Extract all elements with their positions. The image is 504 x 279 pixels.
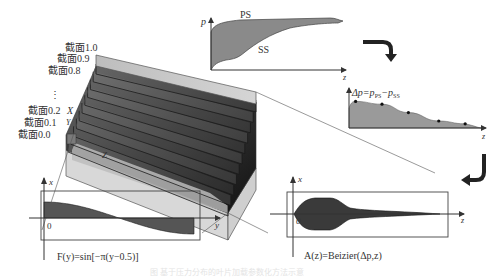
sine-x-axis-arrow [41,177,47,184]
delta-label-mid: −p [381,87,393,98]
bezier-x-axis-arrow [290,176,296,183]
section-label-0-1: 截面0.1 [24,116,57,128]
bezier-origin-label: 0 [296,216,301,226]
delta-pressure-chart: Δp=pPS−pSS z [349,87,486,141]
section-label-0-9: 截面0.9 [57,52,90,64]
figure-canvas: Z Y 截面1.0 截面0.9 截面0.8 ⋮ 截面0.2 X 截面0.1 截面… [0,0,504,279]
sine-origin-label: 0 [47,221,52,231]
arrow-left-icon [469,154,484,180]
section-label-0-8: 截面0.8 [48,64,81,76]
section-label-1-0: 截面1.0 [65,41,98,53]
section-label-0-0: 截面0.0 [18,128,51,140]
section-ellipsis: ⋮ [50,89,60,100]
delta-control-point [437,119,440,122]
delta-label: Δp=pPS−pSS [351,87,400,99]
pressure-area [211,18,343,70]
block-axis-x-label: X [66,105,74,116]
figure-caption: 图 基于压力分布的叶片加载参数化方法示意 [150,267,304,277]
delta-label-sub2: SS [393,93,400,99]
delta-control-point [354,100,357,103]
ps-label: PS [240,9,251,20]
delta-label-sub1: PS [375,93,382,99]
bezier-formula: A(z)=Beizier(Δp,z) [304,250,382,262]
delta-control-point [407,111,410,114]
sine-x-label: x [48,177,53,187]
sine-y-label: y [214,220,219,230]
corner-marker [67,134,76,144]
pressure-y-label: p [200,16,206,27]
bezier-panel: x z 0 A(z)=Beizier(Δp,z) [270,174,465,262]
bezier-z-label: z [460,216,465,225]
ss-label: SS [258,44,269,55]
delta-x-label: z [481,132,486,141]
pressure-x-label: z [342,73,347,82]
arrow-left-head [461,174,470,186]
curved-arrow-down [363,42,397,62]
section-label-0-2: 截面0.2 [28,104,61,116]
delta-control-point [464,122,467,125]
delta-control-point [380,103,383,106]
pressure-distribution-chart: p z PS SS [200,9,347,82]
delta-label-prefix: Δp=p [351,87,375,98]
arrow-down-head [385,54,397,62]
arrow-down-icon [363,42,391,55]
curved-arrow-left [461,154,484,186]
sine-formula: F(y)=sin[−π(y−0.5)] [57,251,139,263]
delta-area [349,101,481,128]
bezier-x-label: x [297,174,302,184]
connector-line [256,92,435,173]
